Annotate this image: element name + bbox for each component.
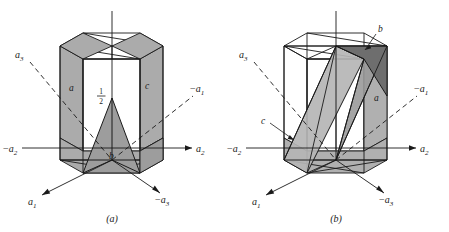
axis-label-a2: a2 (196, 143, 205, 157)
arrowhead-a1 (266, 189, 274, 195)
face-label-c: c (261, 116, 266, 126)
axis-label-neg-a2: −a2 (3, 143, 18, 157)
arrowhead-a2 (409, 145, 416, 150)
caption-panel-a: (a) (106, 213, 118, 225)
arrowhead-a2 (185, 145, 192, 150)
face-label-b: b (109, 151, 114, 161)
shaded-face-c-right (140, 46, 163, 151)
axis-label-a2: a2 (420, 143, 429, 157)
axis-label-a1: a1 (252, 196, 261, 210)
panel-a: a3 −a1 −a2 a2 a1 −a3 a c b 1 2 (a) (0, 0, 225, 232)
axis-label-neg-a1: −a1 (190, 83, 204, 97)
panel-a-drawing: a3 −a1 −a2 a2 a1 −a3 a c b 1 2 (a) (0, 0, 225, 232)
crystallography-figure: a3 −a1 −a2 a2 a1 −a3 a c b 1 2 (a) (0, 0, 449, 232)
shaded-face-a-left (60, 46, 83, 151)
fraction-one-half: 1 2 (97, 87, 106, 106)
arrowhead-a1 (42, 189, 50, 195)
axis-label-a3: a3 (239, 49, 248, 63)
axis-label-neg-a1: −a1 (414, 83, 428, 97)
fraction-denominator: 2 (99, 97, 103, 106)
arrowhead-neg-a3 (152, 185, 160, 193)
axis-label-neg-a2: −a2 (227, 143, 242, 157)
face-label-a: a (69, 83, 74, 93)
axis-label-a3: a3 (15, 49, 24, 63)
axis-label-a1: a1 (28, 196, 37, 210)
panel-b: a3 −a1 −a2 a2 a1 −a3 b a c (b) (224, 0, 449, 232)
caption-panel-b: (b) (330, 213, 342, 225)
axis-label-neg-a3: −a3 (379, 194, 394, 208)
face-label-a: a (374, 93, 379, 103)
fraction-numerator: 1 (99, 87, 103, 96)
panel-b-drawing: a3 −a1 −a2 a2 a1 −a3 b a c (b) (224, 0, 449, 232)
axis-label-neg-a3: −a3 (155, 194, 170, 208)
arrowhead-neg-a3 (376, 185, 384, 193)
face-label-b: b (378, 24, 383, 34)
